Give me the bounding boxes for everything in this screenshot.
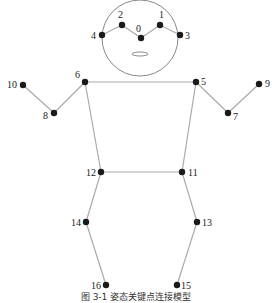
connection-11-13 xyxy=(182,172,197,222)
keypoint-14 xyxy=(83,219,89,225)
keypoint-label-1: 1 xyxy=(159,9,164,20)
keypoint-16 xyxy=(103,282,109,288)
connection-6-12 xyxy=(85,82,101,172)
keypoint-label-11: 11 xyxy=(188,167,198,178)
keypoint-1 xyxy=(157,22,163,28)
keypoint-label-2: 2 xyxy=(118,9,123,20)
keypoint-3 xyxy=(177,32,183,38)
keypoint-7 xyxy=(225,110,231,116)
keypoint-5 xyxy=(193,79,199,85)
connection-5-11 xyxy=(182,82,196,172)
connection-13-15 xyxy=(177,222,197,285)
keypoint-label-5: 5 xyxy=(201,76,206,87)
keypoint-label-10: 10 xyxy=(7,79,17,90)
connection-8-10 xyxy=(23,85,54,113)
connection-4-2 xyxy=(102,25,122,35)
connection-7-9 xyxy=(228,84,259,113)
connection-12-14 xyxy=(86,172,101,222)
keypoint-label-9: 9 xyxy=(265,78,270,89)
mouth xyxy=(132,52,148,56)
keypoint-6 xyxy=(82,79,88,85)
keypoint-12 xyxy=(98,169,104,175)
keypoint-13 xyxy=(194,219,200,225)
keypoint-label-3: 3 xyxy=(185,30,190,41)
keypoint-label-13: 13 xyxy=(202,217,212,228)
connection-0-1 xyxy=(141,25,160,38)
keypoint-15 xyxy=(174,282,180,288)
keypoints xyxy=(20,22,262,288)
keypoint-label-8: 8 xyxy=(43,110,48,121)
keypoint-9 xyxy=(256,81,262,87)
keypoint-label-0: 0 xyxy=(136,23,141,34)
keypoint-0 xyxy=(138,35,144,41)
keypoint-labels: 012345678910111213141516 xyxy=(7,9,270,291)
keypoint-label-7: 7 xyxy=(233,111,238,122)
keypoint-4 xyxy=(99,32,105,38)
keypoint-8 xyxy=(51,110,57,116)
keypoint-label-14: 14 xyxy=(71,217,81,228)
connection-14-16 xyxy=(86,222,106,285)
keypoint-label-4: 4 xyxy=(91,30,96,41)
figure-caption: 图 3-1 姿态关键点连接模型 xyxy=(0,290,272,303)
keypoint-label-12: 12 xyxy=(86,167,96,178)
connection-6-8 xyxy=(54,82,85,113)
skeleton-connections xyxy=(23,25,259,285)
keypoint-11 xyxy=(179,169,185,175)
keypoint-10 xyxy=(20,82,26,88)
keypoint-2 xyxy=(119,22,125,28)
keypoint-label-6: 6 xyxy=(75,69,80,80)
